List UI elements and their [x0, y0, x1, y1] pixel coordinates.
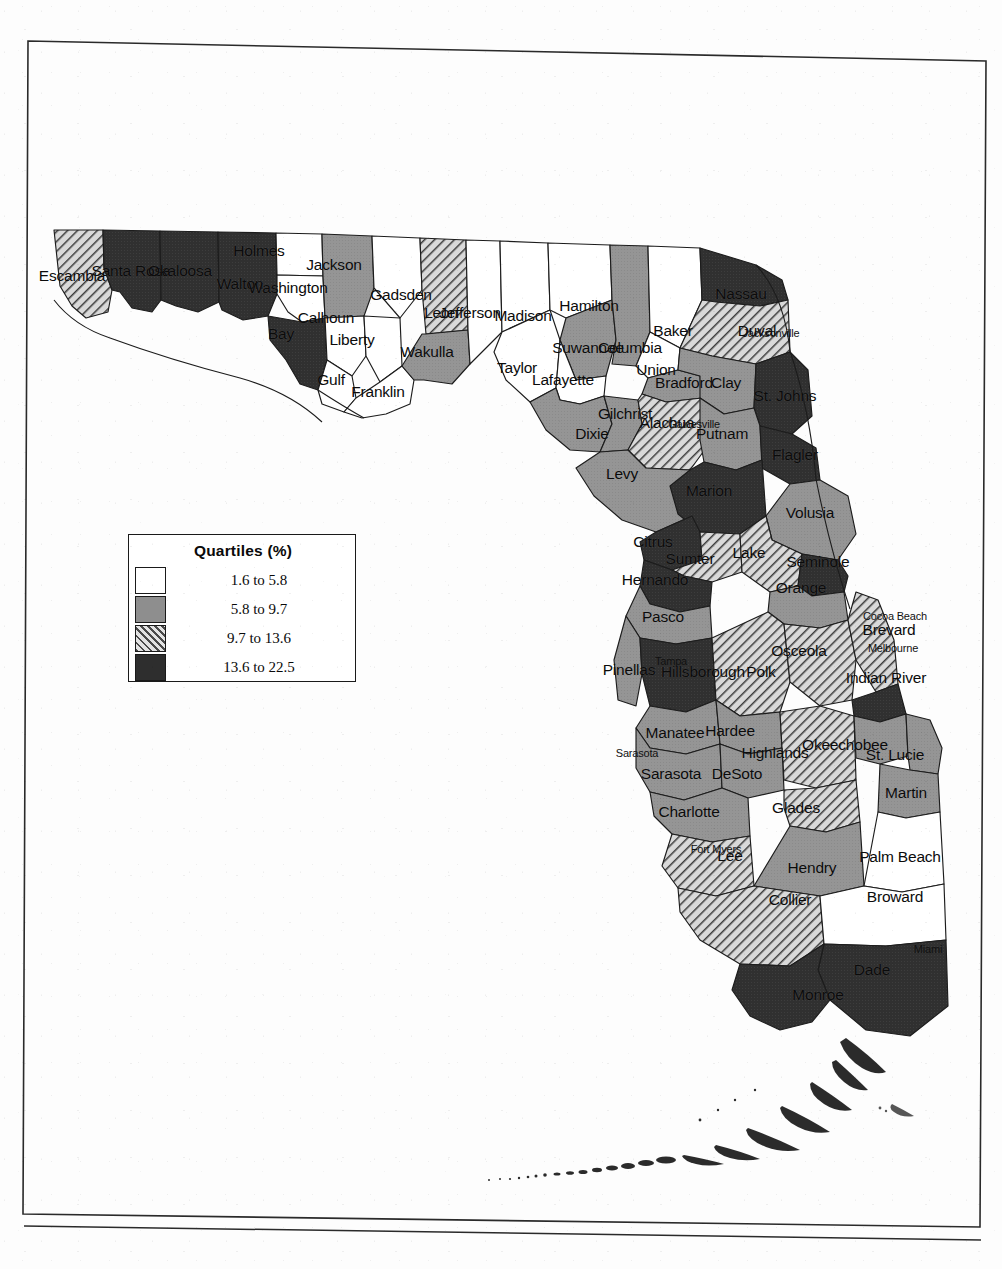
- county-label-lafayette: Lafayette: [532, 372, 594, 388]
- county-label-pinellas: Pinellas: [603, 662, 656, 678]
- county-label-franklin: Franklin: [351, 384, 405, 400]
- legend-label-3: 9.7 to 13.6: [173, 623, 351, 653]
- city-label-gainesville: Gainesville: [668, 419, 720, 430]
- legend-row-4: 13.6 to 22.5: [129, 652, 357, 682]
- county-label-gadsden: Gadsden: [370, 287, 432, 303]
- county-label-polk: Polk: [746, 664, 775, 680]
- legend-row-2: 5.8 to 9.7: [129, 594, 357, 624]
- county-label-osceola: Osceola: [771, 643, 826, 659]
- county-label-hernando: Hernando: [622, 572, 688, 588]
- county-label-palm-beach: Palm Beach: [859, 849, 941, 865]
- county-label-orange: Orange: [776, 580, 827, 596]
- county-label-hardee: Hardee: [705, 723, 755, 739]
- county-label-desoto: DeSoto: [712, 766, 763, 782]
- legend-label-4: 13.6 to 22.5: [173, 652, 351, 682]
- county-label-jefferson: Jefferson: [439, 305, 501, 321]
- county-label-nassau: Nassau: [715, 286, 766, 302]
- county-label-sarasota: Sarasota: [641, 766, 701, 782]
- city-label-tampa: Tampa: [655, 656, 687, 667]
- county-label-seminole: Seminole: [786, 554, 849, 570]
- county-label-glades: Glades: [772, 800, 820, 816]
- county-label-columbia: Columbia: [598, 340, 662, 356]
- county-label-hillsborough: Hillsborough: [661, 664, 745, 680]
- city-label-sarasota: Sarasota: [616, 748, 658, 759]
- county-label-charlotte: Charlotte: [658, 804, 719, 820]
- county-label-sumter: Sumter: [666, 551, 715, 567]
- legend-title: Quartiles (%): [129, 542, 357, 560]
- county-label-baker: Baker: [653, 323, 693, 339]
- county-label-clay: Clay: [711, 375, 741, 391]
- legend-row-3: 9.7 to 13.6: [129, 623, 357, 653]
- county-label-manatee: Manatee: [646, 725, 705, 741]
- county-gadsden: [372, 236, 422, 318]
- county-osceola: [784, 620, 856, 706]
- county-label-lake: Lake: [733, 545, 766, 561]
- legend-swatch-solid-dark: [135, 654, 166, 681]
- county-label-broward: Broward: [867, 889, 923, 905]
- county-label-monroe: Monroe: [792, 987, 843, 1003]
- city-label-miami: Miami: [914, 944, 942, 955]
- city-label-jacksonville: Jacksonville: [743, 328, 800, 339]
- county-stlucie: [906, 714, 942, 774]
- county-label-pasco: Pasco: [642, 609, 684, 625]
- legend-row-1: 1.6 to 5.8: [129, 565, 357, 595]
- county-label-hamilton: Hamilton: [559, 298, 619, 314]
- county-label-dixie: Dixie: [575, 426, 608, 442]
- legend-swatch-diagonal-hatch: [135, 625, 166, 652]
- county-label-liberty: Liberty: [329, 332, 374, 348]
- county-label-indian-river: Indian River: [846, 670, 926, 686]
- county-label-st-lucie: St. Lucie: [866, 747, 925, 763]
- county-label-highlands: Highlands: [741, 745, 808, 761]
- county-label-wakulla: Wakulla: [400, 344, 453, 360]
- county-label-flagler: Flagler: [772, 447, 818, 463]
- city-label-fort-myers: Fort Myers: [691, 844, 742, 855]
- county-label-levy: Levy: [606, 466, 638, 482]
- county-label-hendry: Hendry: [788, 860, 837, 876]
- city-label-melbourne: Melbourne: [868, 643, 918, 654]
- county-label-brevard: Brevard: [863, 622, 916, 638]
- city-label-cocoa-beach: Cocoa Beach: [863, 611, 927, 622]
- county-label-calhoun: Calhoun: [298, 310, 354, 326]
- legend-swatch-white: [135, 567, 166, 594]
- county-label-okaloosa: Okaloosa: [148, 263, 212, 279]
- county-label-jackson: Jackson: [306, 257, 361, 273]
- county-jackson: [322, 234, 374, 318]
- legend-swatch-solid-gray: [135, 596, 166, 623]
- florida-keys: [488, 1038, 886, 1181]
- county-label-washington: Washington: [248, 280, 327, 296]
- map-legend: Quartiles (%) 1.6 to 5.85.8 to 9.79.7 to…: [128, 534, 356, 682]
- county-label-martin: Martin: [885, 785, 927, 801]
- legend-label-1: 1.6 to 5.8: [173, 565, 351, 595]
- county-label-dade: Dade: [854, 962, 890, 978]
- county-label-holmes: Holmes: [233, 243, 284, 259]
- county-label-bay: Bay: [268, 326, 294, 342]
- scan-artifacts: [879, 1104, 914, 1117]
- county-label-bradford: Bradford: [655, 375, 713, 391]
- county-label-marion: Marion: [686, 483, 732, 499]
- county-label-volusia: Volusia: [786, 505, 835, 521]
- legend-label-2: 5.8 to 9.7: [173, 594, 351, 624]
- county-label-st-johns: St. Johns: [754, 388, 817, 404]
- county-label-madison: Madison: [494, 308, 551, 324]
- county-label-citrus: Citrus: [633, 534, 672, 550]
- county-label-gulf: Gulf: [317, 372, 345, 388]
- county-label-collier: Collier: [769, 892, 812, 908]
